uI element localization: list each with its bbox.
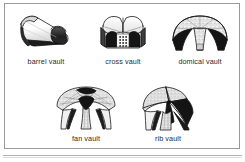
vault-label-fan-vault: fan vault — [47, 134, 125, 143]
fan-vault-illustration — [47, 82, 125, 132]
barrel-vault-illustration — [7, 10, 85, 54]
vault-label-domical-vault: domical vault — [161, 57, 239, 66]
rib-vault-illustration — [129, 82, 207, 132]
vault-label-cross-vault: cross vault — [83, 57, 163, 66]
vault-item-barrel-vault: barrel vault — [7, 10, 85, 66]
vault-label-rib-vault: rib vault — [129, 134, 207, 143]
cross-vault-illustration — [83, 10, 163, 54]
vault-grid: barrel vault — [5, 4, 241, 150]
vault-item-rib-vault: rib vault — [129, 82, 207, 143]
vault-label-barrel-vault: barrel vault — [7, 57, 85, 66]
figure-frame: barrel vault — [4, 3, 240, 149]
vault-item-cross-vault: cross vault — [83, 10, 163, 66]
vault-types-figure: barrel vault — [0, 0, 245, 162]
bottom-divider-shadow — [3, 157, 242, 158]
vault-item-fan-vault: fan vault — [47, 82, 125, 143]
bottom-divider — [3, 155, 242, 156]
vault-item-domical-vault: domical vault — [161, 10, 239, 66]
domical-vault-illustration — [161, 10, 239, 54]
